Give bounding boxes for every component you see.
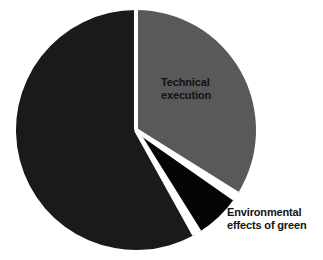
pie-chart: Technical execution Green-reading abilit… (0, 0, 323, 260)
pie-slice-label-technical-execution: Technical execution (161, 76, 211, 101)
pie-slice-label-green-reading-ability: Green-reading ability (40, 138, 113, 163)
pie-slice-label-environmental-effects-of-green: Environmental effects of green (227, 206, 307, 231)
